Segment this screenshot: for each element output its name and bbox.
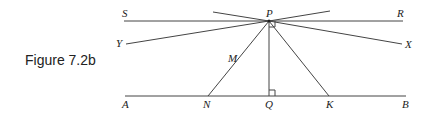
point-labels: S P R Y X M A N Q K B (116, 7, 413, 110)
label-a: A (121, 98, 129, 110)
line-upper-right (269, 11, 330, 21)
label-k: K (325, 98, 334, 110)
label-p: P (265, 7, 273, 19)
label-q: Q (265, 98, 273, 110)
point-p-dot (268, 20, 271, 23)
label-x: X (404, 38, 413, 50)
label-y: Y (116, 37, 124, 49)
label-s: S (122, 7, 128, 19)
line-pk (269, 21, 329, 96)
geometry-diagram: S P R Y X M A N Q K B (0, 0, 436, 119)
label-b: B (402, 98, 409, 110)
line-upper-left (213, 12, 269, 21)
diagram-lines (124, 11, 406, 96)
label-m: M (227, 52, 238, 64)
label-r: R (396, 7, 404, 19)
right-angle-q (269, 90, 275, 96)
line-px (269, 21, 402, 44)
line-yp (126, 21, 269, 44)
line-pn (208, 21, 269, 96)
label-n: N (202, 98, 211, 110)
